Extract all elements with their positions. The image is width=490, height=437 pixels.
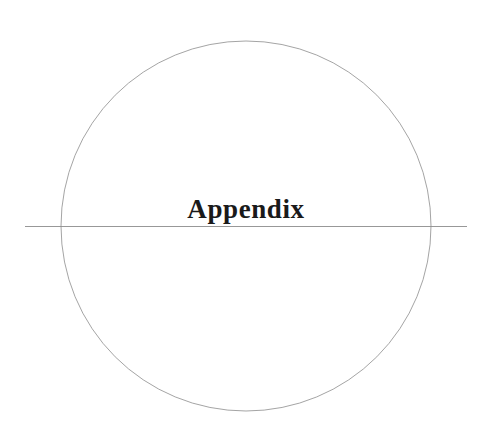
page-title: Appendix bbox=[0, 193, 490, 225]
decorative-circle bbox=[61, 41, 431, 411]
